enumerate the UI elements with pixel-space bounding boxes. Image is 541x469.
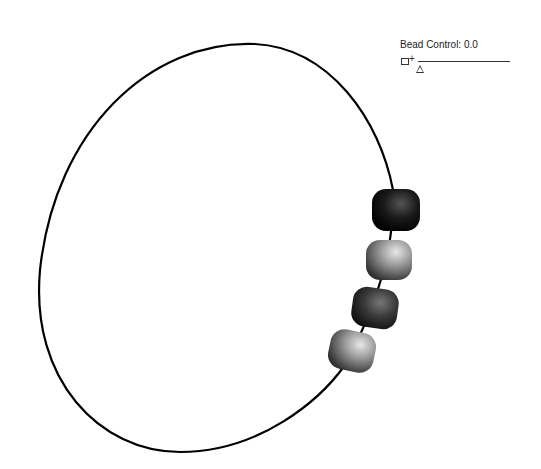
bead-4[interactable] [325,327,378,376]
plus-icon[interactable]: + [409,53,415,65]
bead-control-panel: Bead Control: 0.0 + [400,39,520,76]
bead-control-slider[interactable]: + [400,54,520,76]
bead-viewer: Bead Control: 0.0 + [0,0,541,469]
bead-3[interactable] [349,285,400,331]
bead-1[interactable] [372,189,420,231]
checkbox-icon[interactable] [401,58,409,65]
bead-control-label: Bead Control: 0.0 [400,39,520,51]
loop-wire [39,44,393,452]
slider-track[interactable] [418,61,510,62]
slider-thumb-icon[interactable] [416,65,424,73]
bead-2[interactable] [366,240,412,280]
